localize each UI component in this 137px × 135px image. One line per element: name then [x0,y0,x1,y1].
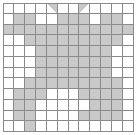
grid-cell [25,78,36,89]
grid-cell [90,57,101,68]
grid-cell [101,25,112,36]
grid-cell [79,46,90,57]
grid-cell [3,121,14,132]
grid-cell [58,78,69,89]
grid-cell [90,78,101,89]
grid-cell [14,111,25,122]
grid-cell [69,78,80,89]
grid-cell [79,111,90,122]
grid-cell [112,46,123,57]
grid-cell [112,111,123,122]
grid-cell [69,14,80,25]
grid-cell [25,57,36,68]
grid-cell [3,3,14,14]
grid-cell [123,121,134,132]
grid-cell [58,35,69,46]
grid-cell [25,35,36,46]
grid-cell [101,121,112,132]
grid-cell [14,46,25,57]
grid-cell [25,14,36,25]
grid-cell [3,100,14,111]
grid-cell [90,100,101,111]
triangle-left-down-icon [47,4,57,13]
grid-cell [123,100,134,111]
grid-cell [112,78,123,89]
grid-cell [123,46,134,57]
grid-cell [14,25,25,36]
grid-cell [69,25,80,36]
grid-cell [123,35,134,46]
grid-cell [36,3,47,14]
grid-cell [112,57,123,68]
grid-cell [90,3,101,14]
grid-cell [101,78,112,89]
grid-cell [14,121,25,132]
triangle-right-down-icon [79,4,89,13]
grid-cell [47,46,58,57]
grid-cell [123,25,134,36]
grid-cell [79,89,90,100]
grid-cell [36,46,47,57]
grid-cell [47,111,58,122]
grid-cell [101,111,112,122]
grid-cell [101,3,112,14]
grid-cell [101,46,112,57]
grid-cell [69,89,80,100]
pattern-grid [3,3,134,132]
grid-cell [79,57,90,68]
grid-cell [3,46,14,57]
grid-cell [101,68,112,79]
grid-cell [14,3,25,14]
grid-cell [36,78,47,89]
grid-cell [47,35,58,46]
grid-cell [14,68,25,79]
grid-cell [47,89,58,100]
grid-cell [58,68,69,79]
grid-cell [101,100,112,111]
grid-cell [69,68,80,79]
grid-cell [90,89,101,100]
grid-cell [79,100,90,111]
grid-cell [47,3,58,14]
grid-cell [90,46,101,57]
grid-cell [25,111,36,122]
grid-cell [90,25,101,36]
grid-cell [69,121,80,132]
grid-cell [36,111,47,122]
grid-cell [101,57,112,68]
grid-cell [123,78,134,89]
grid-cell [14,78,25,89]
grid-cell [123,57,134,68]
grid-cell [58,89,69,100]
grid-cell [25,100,36,111]
grid-cell [79,35,90,46]
grid-cell [36,89,47,100]
grid-cell [79,25,90,36]
grid-cell [47,57,58,68]
grid-cell [25,25,36,36]
grid-cell [25,3,36,14]
grid-cell [58,25,69,36]
grid-cell [14,57,25,68]
grid-cell [58,46,69,57]
grid-cell [36,57,47,68]
grid-cell [36,14,47,25]
grid-cell [90,35,101,46]
grid-cell [36,121,47,132]
grid-cell [3,111,14,122]
grid-wrapper [3,3,134,132]
grid-cell [69,111,80,122]
grid-cell [36,68,47,79]
grid-cell [79,68,90,79]
grid-cell [47,100,58,111]
grid-cell [58,111,69,122]
grid-cell [36,35,47,46]
grid-cell [3,35,14,46]
grid-cell [25,89,36,100]
grid-cell [25,68,36,79]
grid-cell [25,121,36,132]
grid-cell [47,78,58,89]
grid-cell [112,14,123,25]
grid-cell [101,35,112,46]
grid-cell [47,121,58,132]
